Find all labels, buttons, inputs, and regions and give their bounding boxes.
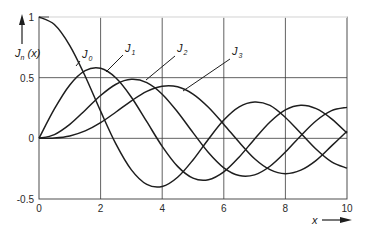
x-tick-label: 8 [283, 203, 289, 214]
x-tick-label: 10 [341, 203, 353, 214]
x-tick-label: 2 [98, 203, 104, 214]
bessel-chart: J0J1J2J3 024681010.50-0.5 Jn (x) x [0, 0, 365, 235]
grid-lines [39, 17, 347, 199]
leader-line-j1 [106, 55, 123, 72]
y-axis-label-text: Jn (x) [14, 47, 41, 61]
curve-label-j0: J0 [81, 48, 93, 62]
x-axis-label-text: x [311, 214, 318, 226]
plot-frame [39, 17, 347, 199]
y-axis-label: Jn (x) [14, 14, 41, 61]
x-axis-label: x [311, 214, 352, 226]
y-tick-label: 0 [28, 133, 34, 144]
y-tick-label: 1 [28, 12, 34, 23]
x-tick-label: 4 [159, 203, 165, 214]
leader-line-j3 [183, 59, 230, 91]
y-arrowhead-icon [19, 14, 25, 25]
curves [39, 17, 347, 187]
y-tick-label: -0.5 [17, 194, 35, 205]
x-arrowhead-icon [340, 217, 352, 223]
x-tick-label: 6 [221, 203, 227, 214]
curve-j0 [39, 17, 347, 187]
curve-label-j1: J1 [124, 42, 136, 56]
curve-label-j2: J2 [176, 42, 188, 56]
leader-line-j2 [146, 56, 175, 80]
x-tick-label: 0 [36, 203, 42, 214]
y-tick-label: 0.5 [20, 73, 34, 84]
curve-label-j3: J3 [231, 45, 243, 59]
